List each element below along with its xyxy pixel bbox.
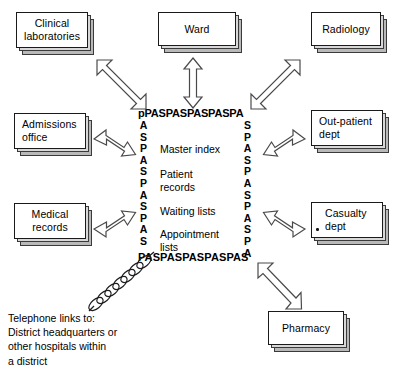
arrow-admissions-office [93, 128, 137, 162]
pas-function-master-index: Master index [160, 143, 242, 156]
arrow-medical-records [93, 205, 137, 239]
arrow-pharmacy [254, 261, 304, 313]
pas-border-left: A S P A S P A S P A S [138, 120, 149, 248]
box-face: Radiology [311, 12, 381, 46]
box-face: Ward [158, 12, 236, 46]
pas-letter: A [138, 120, 149, 132]
box-face: Out-patient dept [311, 110, 383, 146]
box-face: Casualty dept [311, 202, 383, 238]
dept-box-admissions-office[interactable]: Admissions office [14, 113, 86, 149]
pas-function-appointment-lists: Appointment lists [160, 228, 242, 253]
pas-letter: S [242, 120, 253, 132]
pas-letter: P [138, 178, 149, 190]
telephone-links-caption: Telephone links to: District headquarter… [8, 311, 188, 368]
dept-box-radiology[interactable]: Radiology [311, 12, 381, 46]
arrow-out-patient-dept [262, 128, 306, 162]
ink-dot-artifact [316, 228, 319, 231]
arrow-clinical-laboratories [93, 57, 149, 111]
pas-function-waiting-lists: Waiting lists [160, 205, 242, 218]
pas-letter: P [242, 236, 253, 248]
central-pas-system: pPASPASPASPASPA PASPASPASPASPAS A S P A … [138, 107, 260, 267]
dept-label: Ward [184, 23, 209, 36]
pas-letter: S [138, 236, 149, 248]
box-face: Medical records [14, 203, 86, 239]
dept-box-medical-records[interactable]: Medical records [14, 203, 86, 239]
arrow-radiology [248, 57, 304, 111]
pas-letter: A [242, 248, 253, 260]
pas-function-patient-records: Patient records [160, 168, 242, 193]
pas-functions-list: Master index Patient records Waiting lis… [160, 125, 240, 247]
pas-border-right: S P A S P A S P A S P A [242, 120, 253, 259]
dept-label: Casualty dept [325, 207, 367, 233]
dept-box-out-patient-dept[interactable]: Out-patient dept [311, 110, 383, 146]
dept-label: Medical records [32, 208, 69, 234]
arrow-ward [182, 57, 204, 109]
box-face: Admissions office [14, 113, 86, 149]
dept-label: Admissions office [22, 118, 77, 144]
dept-label: Pharmacy [282, 322, 330, 335]
pas-letter: P [242, 201, 253, 213]
dept-box-clinical-laboratories[interactable]: Clinical laboratories [16, 12, 88, 48]
dept-label: Radiology [322, 23, 370, 36]
pas-letter: S [138, 201, 149, 213]
dept-box-pharmacy[interactable]: Pharmacy [268, 311, 344, 345]
dept-box-ward[interactable]: Ward [158, 12, 236, 46]
arrow-casualty-dept [262, 205, 306, 239]
dept-box-casualty-dept[interactable]: Casualty dept [311, 202, 383, 238]
dept-label: Clinical laboratories [24, 17, 80, 43]
pas-letter: A [242, 178, 253, 190]
telephone-cord-coil [86, 252, 160, 314]
diagram-canvas: Clinical laboratories Ward Radiology Adm… [0, 0, 393, 370]
box-face: Clinical laboratories [16, 12, 88, 48]
dept-label: Out-patient dept [319, 115, 372, 141]
box-face: Pharmacy [268, 311, 344, 345]
